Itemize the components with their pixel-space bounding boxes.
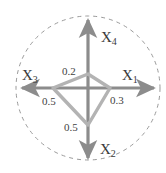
axis-label-x3: X3 [22,68,38,83]
data-polygon [53,74,110,125]
origin-point [86,86,89,89]
axis-label-x4: X4 [101,30,117,45]
radar-diagram-figure: X1 X2 X3 X4 0.2 0.3 0.5 0.5 [0,0,166,173]
radar-plot-canvas [0,0,166,173]
value-label-x4: 0.2 [62,66,76,77]
axis-label-x1: X1 [122,68,138,83]
value-label-x1: 0.3 [110,95,124,106]
value-label-x3: 0.5 [42,96,56,107]
value-label-x2: 0.5 [64,122,78,133]
axis-label-x2: X2 [100,142,116,157]
